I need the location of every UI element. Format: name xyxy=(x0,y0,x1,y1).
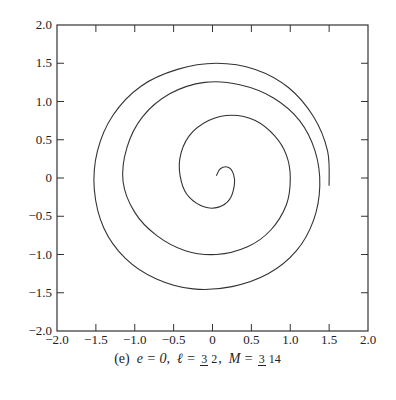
caption-label: (e) xyxy=(114,351,130,367)
y-tick-label: −1.0 xyxy=(28,247,52,262)
x-tick-label: 1.5 xyxy=(321,332,337,347)
caption-l-symbol: ℓ = xyxy=(177,351,196,367)
x-tick-label: 0 xyxy=(209,332,216,347)
y-tick-label: −0.5 xyxy=(28,208,52,223)
caption-m-symbol: M = xyxy=(229,351,254,367)
y-tick-label: −1.5 xyxy=(28,285,52,300)
x-axis-tick-labels: −2.0−1.5−1.0−0.500.51.01.52.0 xyxy=(45,332,376,347)
plot-frame xyxy=(57,25,368,331)
l-numerator: 3 xyxy=(200,353,208,366)
caption-l-fraction: 3 2 xyxy=(200,352,217,366)
y-tick-label: 0 xyxy=(46,170,53,185)
x-tick-label: 2.0 xyxy=(360,332,376,347)
y-axis-ticks xyxy=(57,63,368,293)
y-axis-tick-labels: 2.01.51.00.50−0.5−1.0−1.5−2.0 xyxy=(28,17,52,338)
x-tick-label: −0.5 xyxy=(162,332,186,347)
caption-m-fraction: 3 14 xyxy=(258,352,281,366)
y-tick-label: −2.0 xyxy=(28,323,52,338)
y-tick-label: 1.0 xyxy=(36,94,52,109)
caption-e: e = 0, xyxy=(137,351,170,367)
l-denominator: 2 xyxy=(211,353,217,365)
x-axis-ticks xyxy=(96,25,329,331)
y-tick-label: 0.5 xyxy=(36,132,52,147)
x-tick-label: 1.0 xyxy=(282,332,298,347)
figure-caption: (e) e = 0, ℓ = 3 2 , M = 3 14 xyxy=(0,350,396,367)
y-tick-label: 2.0 xyxy=(36,17,52,32)
chart-figure: −2.0−1.5−1.0−0.500.51.01.52.0 2.01.51.00… xyxy=(0,0,396,400)
orbit-spiral-line xyxy=(94,63,329,289)
m-denominator: 14 xyxy=(269,353,281,365)
x-tick-label: 0.5 xyxy=(243,332,259,347)
x-tick-label: −1.5 xyxy=(84,332,108,347)
caption-separator: , xyxy=(218,351,222,367)
y-tick-label: 1.5 xyxy=(36,55,52,70)
x-tick-label: −1.0 xyxy=(123,332,147,347)
m-numerator: 3 xyxy=(258,353,266,366)
